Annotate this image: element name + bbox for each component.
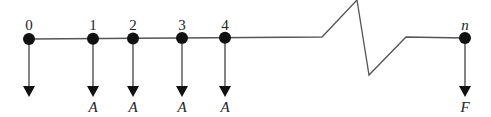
arrow-down-icon: [87, 86, 99, 97]
period-label: 1: [89, 17, 97, 33]
arrow-down-icon: [176, 86, 188, 97]
period-label: 0: [25, 17, 33, 33]
period-node: [87, 33, 99, 45]
period-node: [176, 32, 188, 44]
cash-flow-diagram: 01A2A3A4AnF 0: [0, 0, 491, 117]
arrow-down-icon: [23, 86, 35, 97]
cash-flow-label: A: [87, 99, 98, 115]
arrow-down-icon: [127, 86, 139, 97]
arrow-down-icon: [459, 86, 471, 97]
cash-flow-label: A: [176, 99, 187, 115]
cash-flow-label: F: [459, 99, 470, 115]
period-label: 2: [129, 17, 137, 33]
cash-flow-label: A: [127, 99, 138, 115]
period-node: [459, 32, 471, 44]
period-label: 4: [221, 17, 229, 33]
period-node: [219, 32, 231, 44]
period-node: [23, 33, 35, 45]
timeline-svg: 01A2A3A4AnF: [0, 0, 491, 117]
arrow-down-icon: [219, 86, 231, 97]
cash-flow-label: A: [219, 99, 230, 115]
period-label: 3: [178, 17, 186, 33]
period-label: n: [461, 17, 469, 33]
period-node: [127, 32, 139, 44]
